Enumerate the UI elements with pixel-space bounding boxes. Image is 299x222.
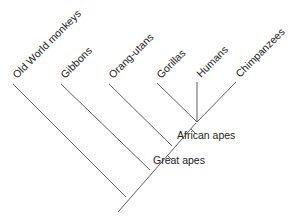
leaf-label-gorillas: Gorillas bbox=[154, 47, 188, 81]
leaf-label-chimpanzees: Chimpanzees bbox=[233, 26, 287, 80]
leaf-label-humans: Humans bbox=[194, 43, 230, 79]
branch-chimpanzees bbox=[197, 82, 236, 122]
cladogram: Old World monkeys Gibbons Orang-utans Go… bbox=[0, 0, 299, 222]
branch-gorillas bbox=[157, 83, 197, 122]
clade-label-african-apes: African apes bbox=[177, 129, 235, 141]
leaf-label-gibbons: Gibbons bbox=[58, 44, 94, 80]
branch-gibbons bbox=[61, 84, 150, 170]
leaf-label-orang-utans: Orang-utans bbox=[106, 31, 156, 81]
clade-label-great-apes: Great apes bbox=[153, 154, 205, 166]
branch-old-world-monkeys bbox=[13, 84, 126, 197]
branch-orang-utans bbox=[109, 84, 172, 146]
